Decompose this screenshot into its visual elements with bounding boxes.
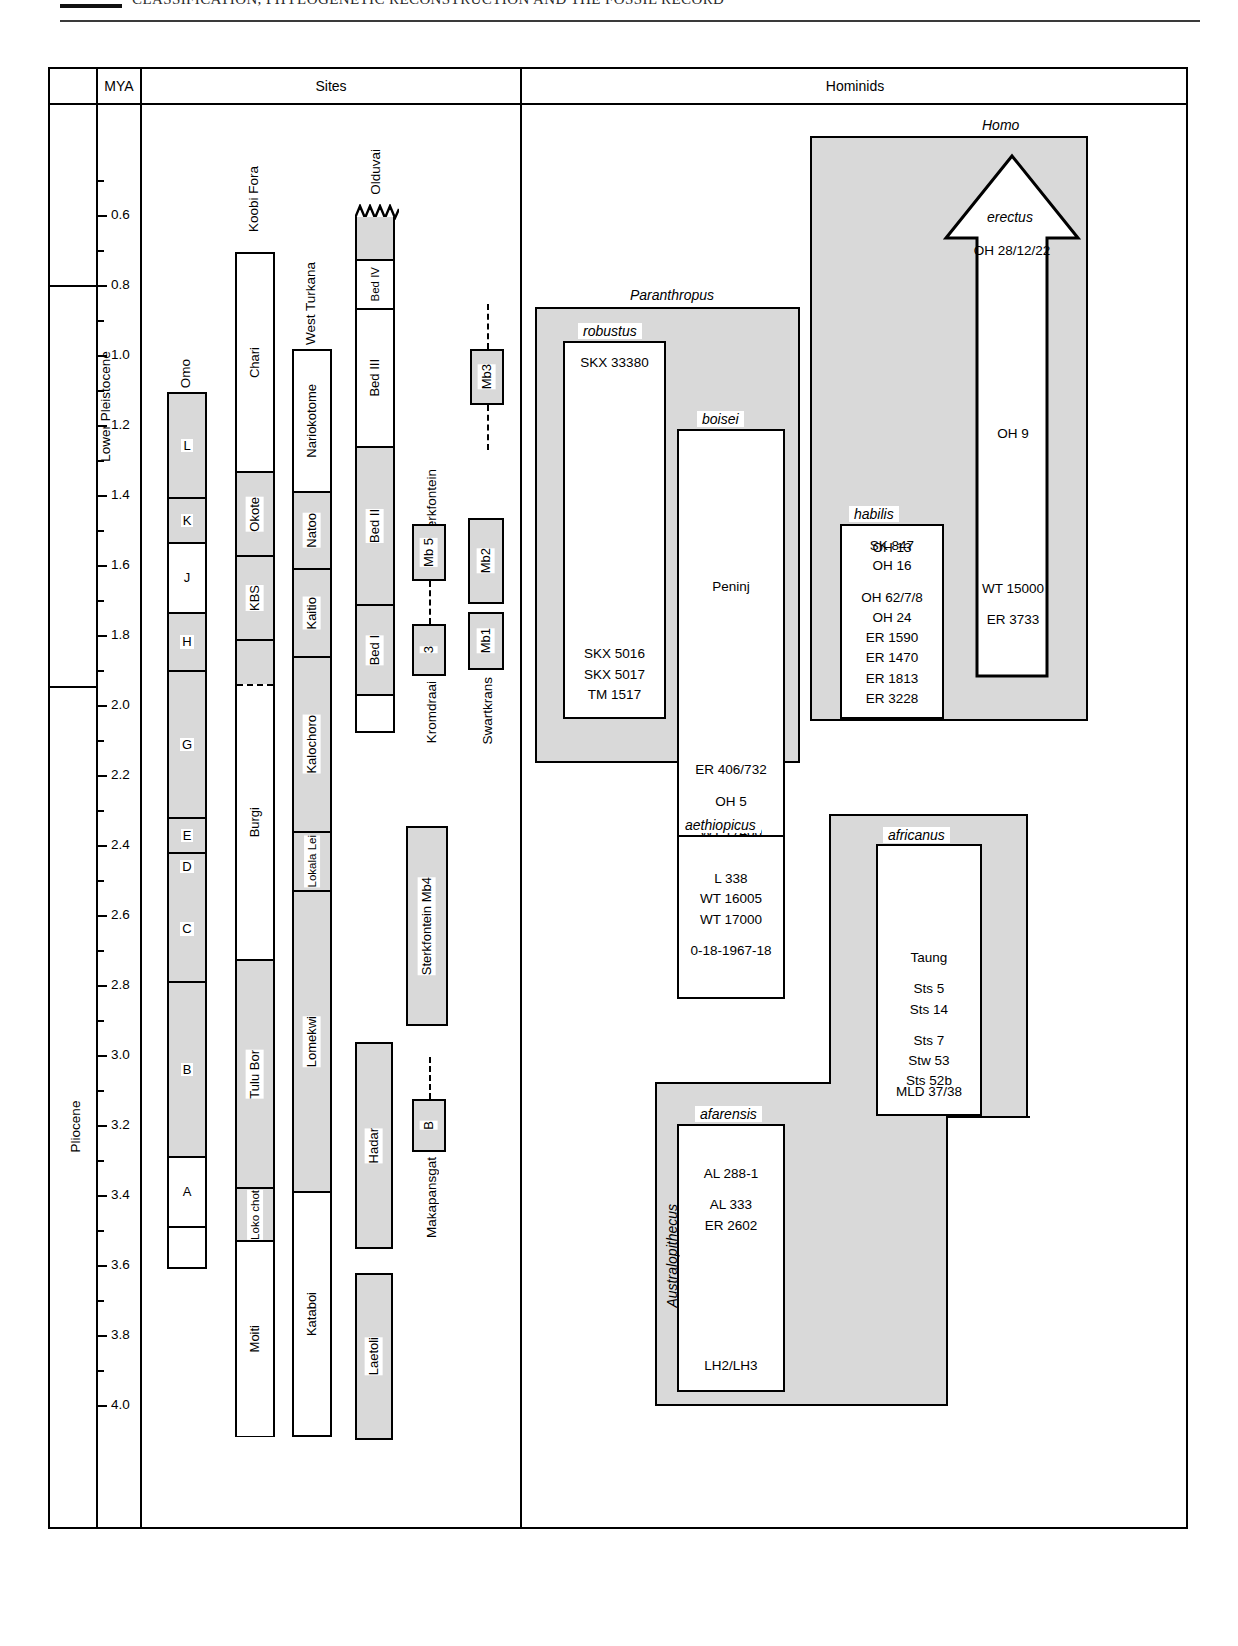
strat-unit[interactable]: Okote: [237, 471, 273, 555]
site-name-kromdraai: Kromdraai: [424, 681, 439, 743]
strat-unit[interactable]: [237, 639, 273, 684]
taxon-label-erectus: erectus: [982, 209, 1038, 225]
site-column-koobi-fora[interactable]: Chari Okote KBS Burgi Tulu Bor Loko chot…: [235, 252, 275, 1437]
species-box-aethiopicus[interactable]: L 338 WT 16005 WT 17000 0-18-1967-18: [677, 835, 785, 999]
tick-label: 2.8: [111, 977, 130, 992]
strat-unit[interactable]: Natoo: [294, 491, 330, 568]
species-box-habilis[interactable]: OH 13 SK 847 OH 16 OH 62/7/8 OH 24 ER 15…: [840, 524, 944, 719]
spacer: [965, 599, 1061, 610]
tick-major: [98, 775, 107, 777]
strat-unit[interactable]: Chari: [237, 254, 273, 471]
tick-label: 1.6: [111, 557, 130, 572]
specimen: ER 1590: [842, 628, 942, 648]
tick-label: 2.4: [111, 837, 130, 852]
strat-unit[interactable]: [357, 217, 393, 259]
tick-minor: [98, 1020, 104, 1022]
strat-unit[interactable]: Loko chot: [237, 1187, 273, 1240]
strat-unit[interactable]: Burgi: [237, 684, 273, 959]
tick-minor: [98, 600, 104, 602]
member-box-laetoli[interactable]: Laetoli: [355, 1273, 393, 1440]
tick-label: 0.8: [111, 277, 130, 292]
member-box-hadar[interactable]: Hadar: [355, 1042, 393, 1249]
strat-unit[interactable]: Bed II: [357, 446, 393, 604]
strat-unit[interactable]: Lomekwi: [294, 890, 330, 1191]
strat-unit[interactable]: Moiti: [237, 1240, 273, 1436]
specimen: Sts 14: [878, 1000, 980, 1020]
tick-label: 1.0: [111, 347, 130, 362]
strat-unit[interactable]: [169, 1226, 205, 1267]
strat-unit[interactable]: Kaitio: [294, 568, 330, 656]
spacer: [679, 781, 783, 792]
strat-unit[interactable]: K: [169, 497, 205, 542]
tick-label: 2.2: [111, 767, 130, 782]
tick-label: 2.6: [111, 907, 130, 922]
tick-minor: [98, 1300, 104, 1302]
strat-unit[interactable]: D: [169, 852, 205, 879]
spacer: [679, 930, 783, 941]
specimen: OH 16: [842, 556, 942, 576]
spacer: [878, 1020, 980, 1031]
strat-unit[interactable]: Bed IV: [357, 259, 393, 308]
australopithecus-join-top: [655, 1082, 831, 1084]
member-box-sterkfontein-mb4[interactable]: Sterkfontein Mb4: [406, 826, 448, 1026]
specimen: Sts 5: [878, 979, 980, 999]
species-box-boisei[interactable]: Peninj ER 406/732 OH 5 WT 17400: [677, 429, 785, 859]
tick-major: [98, 1195, 107, 1197]
specimen: ER 3228: [842, 689, 942, 709]
strat-unit[interactable]: L: [169, 394, 205, 497]
strat-unit[interactable]: KBS: [237, 555, 273, 639]
specimen: ER 2602: [679, 1216, 783, 1236]
strat-unit[interactable]: Bed I: [357, 604, 393, 694]
spacer: [679, 1184, 783, 1195]
tick-major: [98, 425, 107, 427]
taxon-label-aethiopicus: aethiopicus: [680, 817, 761, 833]
site-name-olduvai: Olduvai: [368, 149, 383, 195]
specimen: OH 62/7/8: [842, 588, 942, 608]
site-column-omo[interactable]: L K J H G E D: [167, 392, 207, 890]
strat-unit[interactable]: Nariokotome: [294, 351, 330, 491]
strat-unit[interactable]: B: [169, 981, 205, 1156]
genus-label-australopithecus: Australopithecus: [664, 1204, 680, 1308]
member-box-sterkfontein-mb5[interactable]: Mb 5: [412, 524, 446, 581]
strat-unit[interactable]: Kataboi: [294, 1191, 330, 1435]
strat-unit[interactable]: E: [169, 817, 205, 852]
strat-unit[interactable]: J: [169, 542, 205, 612]
divider-axis-scale: [96, 69, 98, 1527]
strat-unit[interactable]: Lokala Lei: [294, 831, 330, 890]
tick-minor: [98, 810, 104, 812]
site-column-omo-lower[interactable]: C B A: [167, 877, 207, 1269]
member-box-kromdraai-3[interactable]: 3: [412, 624, 446, 676]
species-box-afarensis[interactable]: AL 288-1 AL 333 ER 2602 LH2/LH3: [677, 1124, 785, 1392]
tick-minor: [98, 880, 104, 882]
tick-major: [98, 705, 107, 707]
member-box-swartkrans-mb1[interactable]: Mb1: [468, 612, 504, 670]
divider-scale-sites: [140, 69, 142, 1527]
strat-unit[interactable]: G: [169, 670, 205, 817]
specimen: AL 333: [679, 1195, 783, 1215]
strat-unit[interactable]: A: [169, 1156, 205, 1226]
genus-label-paranthropus: Paranthropus: [630, 287, 714, 303]
site-column-west-turkana[interactable]: Nariokotome Natoo Kaitio Kalochoro Lokal…: [292, 349, 332, 1437]
site-column-olduvai[interactable]: Bed IV Bed III Bed II Bed I: [355, 217, 395, 733]
epoch-boundary-plio: [50, 686, 96, 688]
tick-minor: [98, 250, 104, 252]
tick-minor: [98, 390, 104, 392]
strat-unit[interactable]: Tulu Bor: [237, 959, 273, 1187]
specimen: WT 16005: [679, 889, 783, 909]
specimen: OH 5: [679, 792, 783, 812]
species-box-robustus[interactable]: SKX 33380 SKX 5016 SKX 5017 TM 1517: [563, 341, 666, 719]
strat-unit[interactable]: [357, 694, 393, 729]
strat-unit[interactable]: H: [169, 612, 205, 670]
strat-unit[interactable]: Bed III: [357, 308, 393, 446]
species-box-africanus[interactable]: Taung Sts 5 Sts 14 Sts 7 Stw 53 Sts 52b …: [876, 844, 982, 1116]
member-box-makapansgat-b[interactable]: B: [412, 1099, 446, 1152]
strat-unit[interactable]: C: [169, 877, 205, 981]
member-box-sterkfontein-mb3[interactable]: Mb3: [470, 349, 504, 405]
tick-major: [98, 285, 107, 287]
epoch-boundary-top: [50, 285, 96, 287]
member-box-swartkrans-mb2[interactable]: Mb2: [468, 518, 504, 604]
specimen-group: AL 288-1 AL 333 ER 2602: [679, 1164, 783, 1236]
strat-unit[interactable]: Kalochoro: [294, 656, 330, 831]
specimen-group: SK 847 OH 16 OH 62/7/8 OH 24 ER 1590 ER …: [842, 536, 942, 709]
specimen: SKX 33380: [565, 353, 664, 373]
